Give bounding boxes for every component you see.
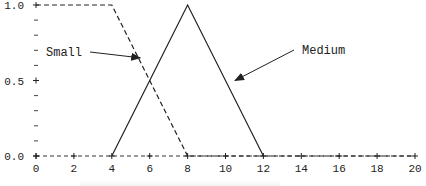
axes: 024681012141618200.00.51.0	[4, 0, 421, 175]
annotations: SmallMedium	[46, 44, 345, 81]
annotation-arrow-medium	[235, 50, 294, 81]
x-tick-label: 10	[219, 163, 232, 175]
x-tick-label: 6	[146, 163, 153, 175]
x-tick-label: 16	[333, 163, 346, 175]
y-tick-label: 0.5	[4, 76, 24, 88]
annotation-arrow-small	[90, 52, 140, 58]
x-tick-label: 20	[408, 163, 421, 175]
x-tick-label: 12	[257, 163, 270, 175]
x-tick-label: 0	[33, 163, 40, 175]
series-group	[36, 5, 415, 156]
y-tick-label: 0.0	[4, 151, 24, 163]
annotation-label-small: Small	[46, 46, 82, 60]
annotation-label-medium: Medium	[302, 44, 345, 58]
figure-caption-cropped	[80, 180, 280, 186]
y-tick-label: 1.0	[4, 0, 24, 12]
series-medium-line	[112, 5, 264, 156]
x-tick-label: 18	[370, 163, 383, 175]
x-tick-label: 14	[295, 163, 309, 175]
x-tick-label: 4	[108, 163, 115, 175]
x-tick-label: 8	[184, 163, 191, 175]
x-tick-label: 2	[71, 163, 78, 175]
membership-function-chart: 024681012141618200.00.51.0 SmallMedium	[0, 0, 426, 186]
